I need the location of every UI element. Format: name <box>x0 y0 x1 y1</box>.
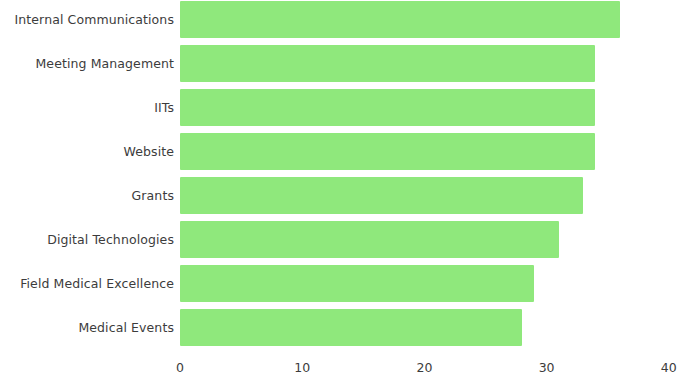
category-label: Field Medical Excellence <box>0 278 174 291</box>
x-tick-label: 20 <box>416 362 432 375</box>
category-axis-labels: Internal Communications Meeting Manageme… <box>0 0 174 357</box>
value-axis: 0 10 20 30 40 <box>0 357 686 386</box>
bar <box>180 177 583 214</box>
x-tick-label: 40 <box>661 362 677 375</box>
bars-container <box>180 0 686 357</box>
bar <box>180 89 595 126</box>
category-label: IITs <box>0 102 174 115</box>
category-label: Medical Events <box>0 322 174 335</box>
category-label: Meeting Management <box>0 58 174 71</box>
bar <box>180 221 559 258</box>
bar <box>180 1 620 38</box>
x-tick-label: 0 <box>176 362 184 375</box>
category-label: Internal Communications <box>0 14 174 27</box>
bar <box>180 309 522 346</box>
category-label: Grants <box>0 190 174 203</box>
bar <box>180 133 595 170</box>
bar <box>180 45 595 82</box>
category-label: Digital Technologies <box>0 234 174 247</box>
bar <box>180 265 534 302</box>
x-tick-label: 30 <box>539 362 555 375</box>
x-tick-label: 10 <box>294 362 310 375</box>
category-label: Website <box>0 146 174 159</box>
bar-chart: Internal Communications Meeting Manageme… <box>0 0 686 386</box>
